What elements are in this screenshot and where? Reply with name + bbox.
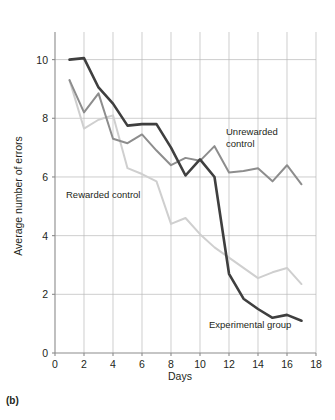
line-chart: 0246810121416180246810 Days Average numb… [0,0,335,420]
x-tick-label: 2 [81,358,87,370]
annotation-unrewarded-control-line2: control [226,138,255,149]
figure-panel-b: 0246810121416180246810 Days Average numb… [0,0,335,420]
x-tick-label: 6 [139,358,145,370]
x-tick-label: 12 [223,358,235,370]
y-tick-label: 4 [42,230,48,242]
annotation-rewarded-control: Rewarded control [66,189,140,200]
panel-label: (b) [6,395,19,406]
y-tick-label: 2 [42,288,48,300]
y-tick-label: 10 [36,54,48,66]
x-tick-label: 14 [252,358,264,370]
x-axis-title: Days [168,370,192,382]
y-axis-title: Average number of errors [12,136,24,255]
chart-background [0,0,335,420]
y-tick-label: 0 [42,347,48,359]
x-tick-label: 18 [310,358,322,370]
x-tick-label: 8 [168,358,174,370]
y-tick-label: 6 [42,171,48,183]
x-tick-label: 4 [110,358,116,370]
annotation-experimental-group: Experimental group [209,319,291,330]
x-tick-label: 0 [52,358,58,370]
x-tick-label: 10 [194,358,206,370]
x-tick-label: 16 [281,358,293,370]
annotation-unrewarded-control-line1: Unrewarded [226,126,278,137]
y-tick-label: 8 [42,112,48,124]
